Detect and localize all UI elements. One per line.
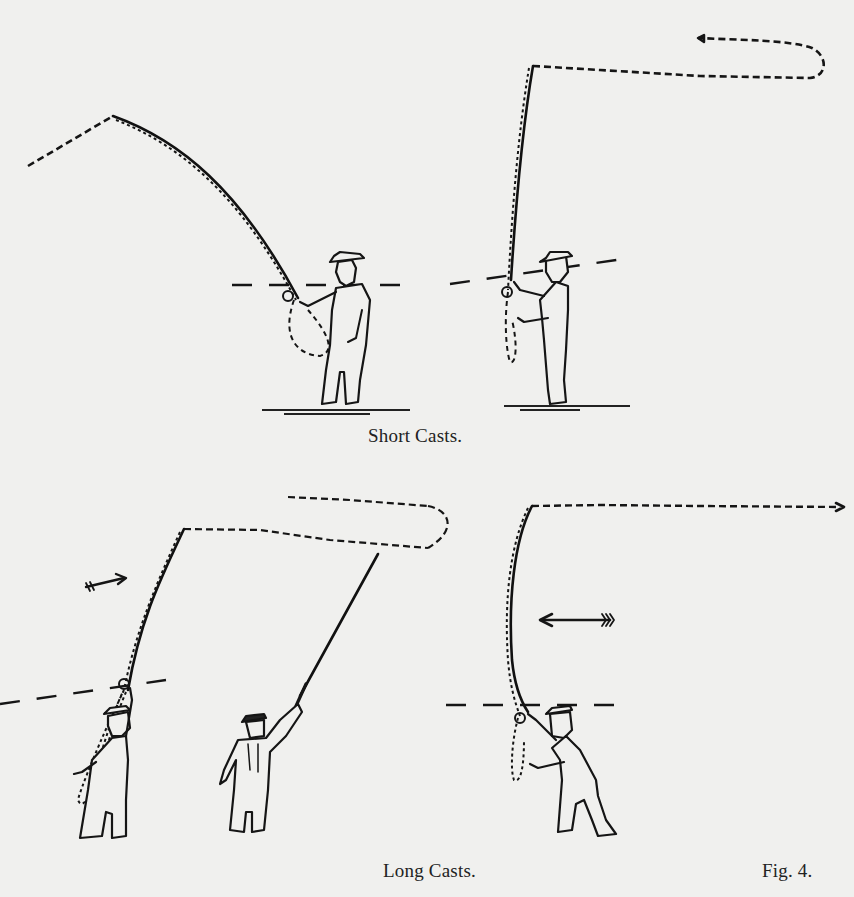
book-page-figure: Short Casts. Long Casts. Fig. 4. bbox=[0, 0, 854, 897]
figure-label: Fig. 4. bbox=[762, 860, 813, 882]
caption-short-casts: Short Casts. bbox=[368, 425, 462, 447]
short-cast-forward-figure bbox=[450, 35, 824, 410]
long-cast-back-figure bbox=[0, 497, 448, 838]
arrow-left-icon bbox=[540, 614, 614, 626]
arrow-right-icon bbox=[86, 574, 126, 591]
casting-illustration bbox=[0, 0, 854, 897]
long-cast-rear-figure bbox=[220, 554, 378, 832]
caption-long-casts: Long Casts. bbox=[383, 860, 476, 882]
long-cast-forward-figure bbox=[446, 503, 844, 836]
short-cast-back-figure bbox=[28, 116, 410, 414]
